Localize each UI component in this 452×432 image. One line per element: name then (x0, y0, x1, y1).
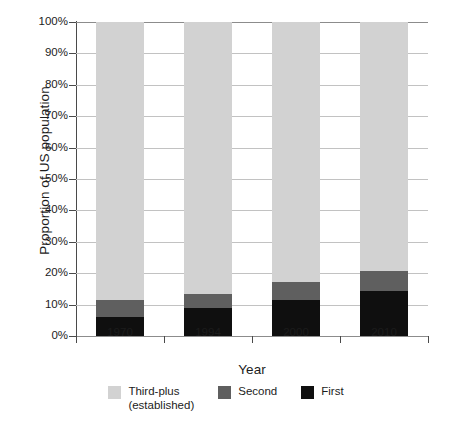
legend-label: First (321, 385, 343, 399)
bar-segment-third-plus[interactable] (96, 22, 144, 300)
bar-segment-third-plus[interactable] (184, 22, 232, 294)
bar-segment-second[interactable] (360, 271, 408, 291)
x-axis-tick-label: 2010 (349, 326, 419, 338)
bar-group[interactable] (360, 22, 408, 336)
stacked-bar-chart: Proportion of US population 0%10%20%30%4… (0, 0, 452, 432)
chart-legend: Third-plus (established)SecondFirst (0, 385, 452, 412)
x-axis-tick (252, 336, 253, 343)
y-axis-tick-label: 90% (24, 47, 68, 59)
legend-label: Second (238, 385, 277, 399)
bar-segment-second[interactable] (184, 294, 232, 308)
y-axis-tick-label: 50% (24, 173, 68, 185)
y-axis-tick-label: 20% (24, 267, 68, 279)
y-axis-tick (69, 116, 76, 117)
y-axis-tick (69, 273, 76, 274)
y-axis-tick-label: 80% (24, 79, 68, 91)
x-axis-tick (428, 336, 429, 343)
x-axis-tick-label: 1970 (85, 326, 155, 338)
y-axis-tick (69, 53, 76, 54)
x-axis-title: Year (76, 362, 428, 377)
y-axis-tick (69, 22, 76, 23)
y-axis-tick (69, 305, 76, 306)
y-axis-tick (69, 210, 76, 211)
bar-group[interactable] (184, 22, 232, 336)
y-axis-tick-label: 0% (24, 330, 68, 342)
legend-item[interactable]: Third-plus (established) (108, 385, 194, 412)
bar-segment-second[interactable] (272, 282, 320, 300)
y-axis-tick (69, 179, 76, 180)
y-axis-tick-label: 10% (24, 299, 68, 311)
y-axis-tick (69, 336, 76, 337)
legend-swatch (108, 386, 121, 399)
y-axis-tick-label: 40% (24, 204, 68, 216)
bar-group[interactable] (96, 22, 144, 336)
legend-label: Third-plus (established) (128, 385, 194, 412)
bar-segment-third-plus[interactable] (272, 22, 320, 282)
legend-swatch (301, 386, 314, 399)
legend-item[interactable]: First (301, 385, 343, 399)
y-axis-tick (69, 85, 76, 86)
legend-item[interactable]: Second (218, 385, 277, 399)
x-axis-tick (340, 336, 341, 343)
legend-swatch (218, 386, 231, 399)
y-axis-tick-label: 30% (24, 236, 68, 248)
x-axis-tick-label: 1994 (173, 326, 243, 338)
x-axis-tick-label: 2000 (261, 326, 331, 338)
x-axis-tick (76, 336, 77, 343)
y-axis-tick (69, 242, 76, 243)
y-axis-tick-label: 60% (24, 142, 68, 154)
y-axis-tick (69, 148, 76, 149)
x-axis-tick (164, 336, 165, 343)
bar-segment-second[interactable] (96, 300, 144, 317)
y-axis-tick-label: 70% (24, 110, 68, 122)
plot-area (76, 22, 428, 336)
y-axis-tick-label: 100% (24, 16, 68, 28)
bar-group[interactable] (272, 22, 320, 336)
bar-segment-third-plus[interactable] (360, 22, 408, 271)
